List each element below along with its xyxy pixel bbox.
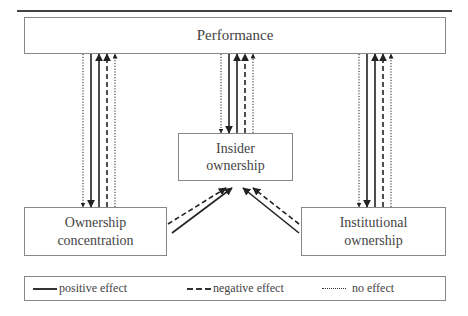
- legend-negative-label: negative effect: [213, 281, 284, 296]
- edges-layer: [0, 0, 468, 316]
- legend-item-none: no effect: [322, 281, 394, 296]
- legend-item-positive: positive effect: [33, 281, 127, 296]
- legend-item-negative: negative effect: [187, 281, 284, 296]
- legend: positive effect negative effect no effec…: [24, 276, 446, 301]
- legend-dashed-line-icon: [187, 288, 211, 290]
- edge-negative-arrow: [253, 188, 299, 224]
- edge-negative-arrow: [168, 188, 226, 224]
- legend-none-label: no effect: [352, 281, 394, 296]
- legend-positive-label: positive effect: [59, 281, 127, 296]
- legend-solid-line-icon: [33, 288, 57, 290]
- edge-positive-arrow: [172, 188, 232, 233]
- edge-positive-arrow: [243, 188, 299, 233]
- legend-dotted-line-icon: [322, 288, 346, 289]
